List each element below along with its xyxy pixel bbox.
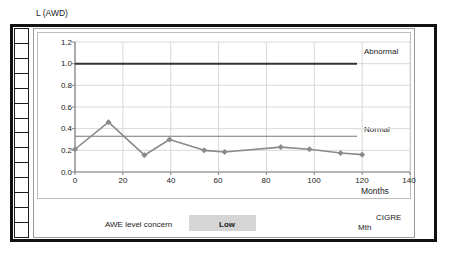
awe-level-concern-label: AWE level concern <box>105 220 172 229</box>
concern-level-value: Low <box>219 220 235 229</box>
cigre-label: CIGRE <box>376 213 401 222</box>
mth-label: Mth <box>358 223 371 232</box>
chart-figure: L (AWD) 1.2 1.0 0.8 0.6 0.4 0.2 0.0 0 20… <box>0 0 451 253</box>
